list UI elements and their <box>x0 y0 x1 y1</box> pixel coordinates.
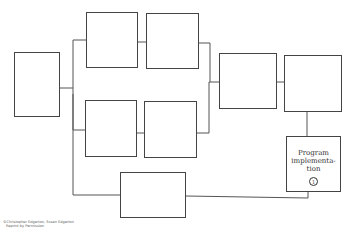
program-label: Program implementa- tion <box>287 149 340 173</box>
diagram-node-4 <box>85 100 137 157</box>
step-number-circle: 1 <box>309 177 318 186</box>
diagram-node-1 <box>14 52 60 117</box>
diagram-node-5 <box>144 101 197 158</box>
diagram-node-7 <box>284 55 342 112</box>
diagram-node-program-implementation: Program implementa- tion 1 <box>286 136 341 192</box>
diagram-node-3 <box>146 13 199 69</box>
label-line: tion <box>287 165 340 173</box>
copyright-credit: ©Christopher Edgerton, Susan Edgerton Re… <box>3 220 74 228</box>
diagram-node-6 <box>219 53 277 109</box>
diagram-node-9 <box>120 172 186 218</box>
label-line: Program <box>287 149 340 157</box>
label-line: implementa- <box>287 157 340 165</box>
credit-line-2: Reprint by Permission <box>3 224 74 228</box>
diagram-node-2 <box>86 12 138 68</box>
